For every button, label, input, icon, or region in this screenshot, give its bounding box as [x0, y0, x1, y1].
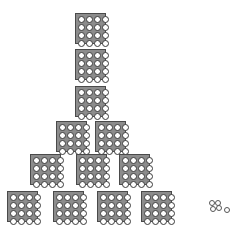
dot-icon — [86, 52, 93, 59]
dot-icon — [108, 210, 115, 217]
dot-icon — [122, 165, 129, 172]
dot-icon — [33, 181, 40, 188]
dot-icon — [49, 173, 56, 180]
dot-icon — [57, 181, 64, 188]
dot-icon — [57, 165, 64, 172]
dot-icon — [33, 157, 40, 164]
dot-icon — [94, 32, 101, 39]
unit-circle-icon — [224, 207, 230, 213]
dot-icon — [86, 60, 93, 67]
dot-icon — [144, 218, 151, 225]
dot-icon — [59, 140, 66, 147]
sixteen-block — [30, 154, 61, 185]
dot-icon — [94, 105, 101, 112]
dot-icon — [98, 132, 105, 139]
dot-icon — [67, 148, 74, 155]
dot-icon — [122, 132, 129, 139]
dot-icon — [146, 157, 153, 164]
dot-icon — [160, 210, 167, 217]
sixteen-block — [76, 154, 107, 185]
dot-icon — [124, 210, 131, 217]
dot-icon — [34, 218, 41, 225]
dot-icon — [83, 132, 90, 139]
dot-icon — [78, 105, 85, 112]
sixteen-block — [56, 121, 87, 152]
dot-icon — [94, 76, 101, 83]
dot-icon — [102, 76, 109, 83]
sixteen-block — [141, 191, 172, 222]
dot-icon — [64, 202, 71, 209]
dot-icon — [18, 202, 25, 209]
dot-icon — [33, 173, 40, 180]
dot-icon — [122, 181, 129, 188]
dot-icon — [79, 173, 86, 180]
dot-icon — [124, 218, 131, 225]
dot-icon — [86, 68, 93, 75]
dot-icon — [146, 181, 153, 188]
sixteen-block — [75, 86, 106, 117]
dot-icon — [152, 210, 159, 217]
dot-icon — [102, 32, 109, 39]
dot-icon — [10, 194, 17, 201]
dot-icon — [86, 97, 93, 104]
dot-icon — [124, 194, 131, 201]
dot-icon — [152, 202, 159, 209]
dot-icon — [78, 97, 85, 104]
dot-icon — [72, 194, 79, 201]
dot-icon — [18, 194, 25, 201]
dot-icon — [106, 124, 113, 131]
dot-icon — [49, 157, 56, 164]
dot-icon — [18, 218, 25, 225]
dot-icon — [86, 32, 93, 39]
dot-icon — [144, 194, 151, 201]
dot-icon — [80, 202, 87, 209]
dot-icon — [122, 157, 129, 164]
dot-icon — [49, 165, 56, 172]
dot-icon — [86, 40, 93, 47]
dot-icon — [144, 202, 151, 209]
dot-icon — [79, 157, 86, 164]
dot-icon — [114, 124, 121, 131]
dot-icon — [103, 173, 110, 180]
dot-icon — [94, 16, 101, 23]
dot-icon — [26, 194, 33, 201]
dot-icon — [102, 16, 109, 23]
dot-icon — [56, 210, 63, 217]
dot-icon — [98, 140, 105, 147]
dot-icon — [78, 68, 85, 75]
dot-icon — [130, 157, 137, 164]
dot-icon — [83, 140, 90, 147]
dot-icon — [41, 157, 48, 164]
dot-icon — [67, 124, 74, 131]
dot-icon — [72, 210, 79, 217]
dot-icon — [108, 202, 115, 209]
dot-icon — [130, 181, 137, 188]
dot-icon — [78, 16, 85, 23]
dot-icon — [87, 181, 94, 188]
dot-icon — [78, 76, 85, 83]
dot-icon — [100, 202, 107, 209]
dot-icon — [103, 165, 110, 172]
dot-icon — [87, 157, 94, 164]
dot-icon — [75, 140, 82, 147]
dot-icon — [79, 165, 86, 172]
dot-icon — [10, 202, 17, 209]
dot-icon — [102, 105, 109, 112]
dot-icon — [86, 105, 93, 112]
dot-icon — [116, 194, 123, 201]
dot-icon — [86, 24, 93, 31]
dot-icon — [64, 218, 71, 225]
dot-icon — [102, 60, 109, 67]
dot-icon — [168, 202, 175, 209]
dot-icon — [80, 194, 87, 201]
dot-icon — [57, 173, 64, 180]
dot-icon — [138, 165, 145, 172]
dot-icon — [59, 124, 66, 131]
dot-icon — [95, 157, 102, 164]
dot-icon — [100, 210, 107, 217]
dot-icon — [94, 24, 101, 31]
dot-icon — [78, 89, 85, 96]
dot-icon — [94, 89, 101, 96]
dot-icon — [138, 157, 145, 164]
dot-icon — [108, 194, 115, 201]
